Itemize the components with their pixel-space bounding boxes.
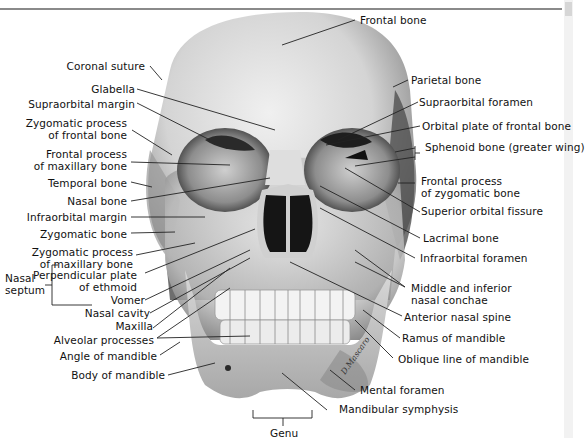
label-maxilla: Maxilla bbox=[115, 320, 153, 332]
label-temporal-bone: Temporal bone bbox=[48, 177, 127, 189]
nasal-bone bbox=[265, 150, 305, 185]
label-perpendicular-plate: Perpendicular plate of ethmoid bbox=[33, 269, 137, 293]
label-nasal-cavity: Nasal cavity bbox=[85, 307, 150, 319]
label-ramus-of-mandible: Ramus of mandible bbox=[402, 332, 505, 344]
label-glabella: Glabella bbox=[91, 83, 135, 95]
label-nasal-septum: Nasal septum bbox=[5, 272, 45, 296]
label-nasal-bone: Nasal bone bbox=[67, 195, 127, 207]
teeth-upper bbox=[215, 290, 355, 320]
label-supraorbital-foramen: Supraorbital foramen bbox=[419, 96, 533, 108]
label-frontal-bone: Frontal bone bbox=[360, 14, 427, 26]
label-orbital-plate: Orbital plate of frontal bone bbox=[422, 120, 571, 132]
label-mandibular-symphysis: Mandibular symphysis bbox=[339, 403, 458, 415]
label-supraorbital-margin: Supraorbital margin bbox=[28, 98, 135, 110]
label-zygomatic-bone: Zygomatic bone bbox=[40, 228, 127, 240]
teeth-lower bbox=[220, 320, 350, 344]
label-nasal-conchae: Middle and inferior nasal conchae bbox=[411, 282, 512, 306]
label-infraorbital-foramen: Infraorbital foramen bbox=[420, 252, 528, 264]
label-infraorbital-margin: Infraorbital margin bbox=[27, 211, 127, 223]
label-parietal-bone: Parietal bone bbox=[411, 74, 481, 86]
label-superior-orbital-fissure: Superior orbital fissure bbox=[421, 205, 543, 217]
label-alveolar-processes: Alveolar processes bbox=[54, 334, 154, 346]
label-genu: Genu bbox=[270, 427, 298, 438]
label-coronal-suture: Coronal suture bbox=[67, 60, 145, 72]
label-body-of-mandible: Body of mandible bbox=[71, 369, 165, 381]
label-mental-foramen: Mental foramen bbox=[360, 384, 445, 396]
label-vomer: Vomer bbox=[111, 294, 145, 306]
label-oblique-line: Oblique line of mandible bbox=[398, 353, 529, 365]
genu-bracket bbox=[253, 410, 312, 426]
label-zygomatic-process-frontal: Zygomatic process of frontal bone bbox=[26, 117, 127, 141]
label-zygomatic-process-maxillary: Zygomatic process of maxillary bone bbox=[32, 246, 133, 270]
label-sphenoid-bone: Sphenoid bone (greater wing) bbox=[425, 141, 585, 153]
label-frontal-process-zygomatic: Frontal process of zygomatic bone bbox=[421, 175, 520, 199]
label-lacrimal-bone: Lacrimal bone bbox=[423, 232, 499, 244]
label-frontal-process-maxillary: Frontal process of maxillary bone bbox=[34, 148, 127, 172]
label-angle-of-mandible: Angle of mandible bbox=[60, 350, 157, 362]
sphenoid-bracket bbox=[415, 146, 420, 160]
label-anterior-nasal-spine: Anterior nasal spine bbox=[404, 311, 511, 323]
